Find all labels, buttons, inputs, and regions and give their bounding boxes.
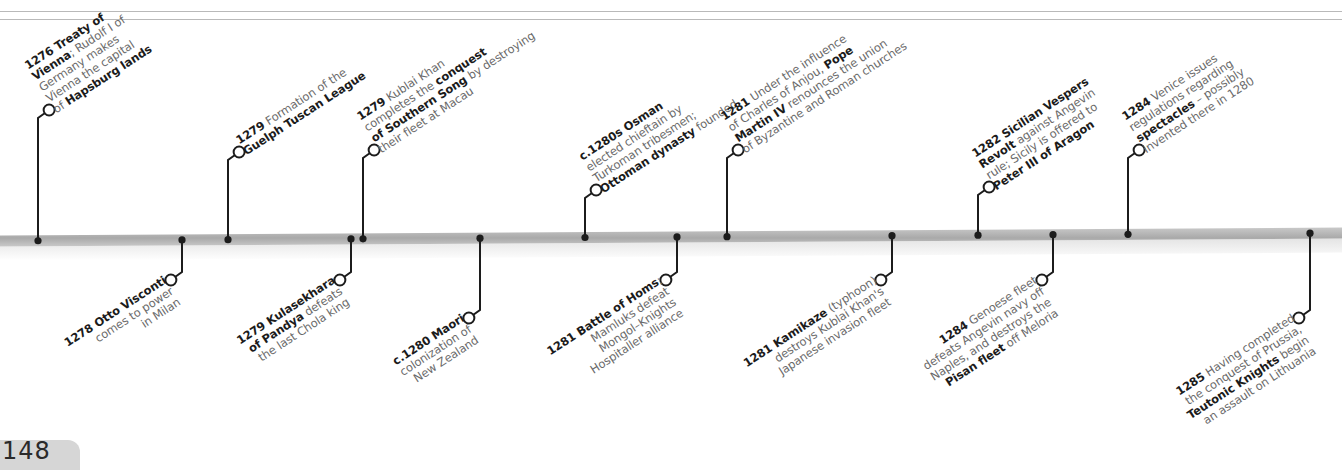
event-connector — [38, 113, 45, 241]
axis-dot — [476, 235, 483, 242]
axis-dot — [1124, 231, 1131, 238]
event-connector — [585, 193, 592, 238]
axis-dot — [974, 232, 981, 239]
event-connector — [1128, 153, 1135, 234]
event-connector — [978, 190, 985, 235]
axis-dot — [347, 235, 354, 242]
axis-dot — [723, 233, 730, 240]
axis-dot — [1306, 230, 1313, 237]
axis-dot — [1049, 231, 1056, 238]
page-number: 148 — [2, 437, 51, 465]
event-connector — [228, 155, 235, 240]
axis-dot — [34, 237, 41, 244]
event-connector — [363, 153, 370, 239]
axis-dot — [581, 234, 588, 241]
axis-dot — [673, 233, 680, 240]
event-connector — [727, 153, 734, 237]
axis-dot — [224, 236, 231, 243]
axis-dot — [178, 236, 185, 243]
axis-dot — [888, 232, 895, 239]
axis-dot — [359, 235, 366, 242]
